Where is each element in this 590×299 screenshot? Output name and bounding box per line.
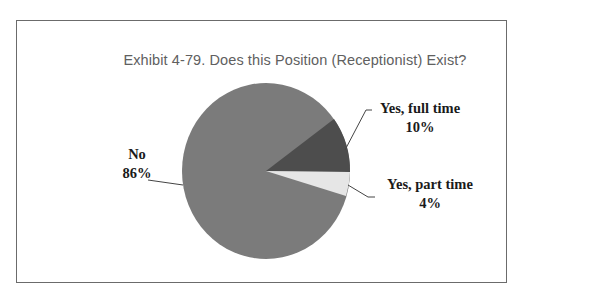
label-no-name: No	[104, 145, 170, 164]
label-full-time-pct: 10%	[370, 118, 470, 137]
label-part-time-name: Yes, part time	[378, 175, 482, 194]
pie-chart	[0, 0, 590, 299]
label-no-pct: 86%	[104, 164, 170, 183]
leader-line-part-time	[348, 185, 375, 197]
label-part-time-pct: 4%	[378, 194, 482, 213]
leader-line-full-time	[345, 110, 372, 150]
data-label-part-time: Yes, part time 4%	[378, 175, 482, 213]
label-full-time-name: Yes, full time	[370, 99, 470, 118]
data-label-no: No 86%	[104, 145, 170, 183]
data-label-full-time: Yes, full time 10%	[370, 99, 470, 137]
